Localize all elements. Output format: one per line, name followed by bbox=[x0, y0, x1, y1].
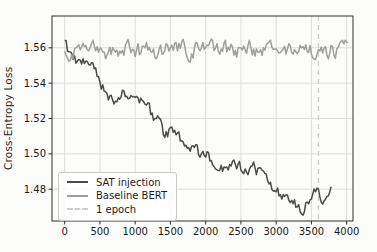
x-tick-label: 3000 bbox=[263, 226, 288, 237]
legend-item-label: SAT injection bbox=[96, 177, 161, 188]
x-tick-label: 4000 bbox=[334, 226, 359, 237]
x-tick-label: 2500 bbox=[228, 226, 253, 237]
legend-item-label: 1 epoch bbox=[96, 204, 136, 215]
x-tick-label: 3500 bbox=[299, 226, 324, 237]
legend-item: 1 epoch bbox=[67, 203, 167, 216]
series-line-baseline-bert bbox=[65, 39, 348, 62]
x-tick-label: 1000 bbox=[122, 226, 147, 237]
y-axis-label: Cross-Entropy Loss bbox=[1, 16, 15, 221]
y-tick-label: 1.50 bbox=[24, 148, 46, 159]
x-tick-label: 1500 bbox=[158, 226, 183, 237]
legend-line-swatch bbox=[67, 208, 88, 210]
legend-item-label: Baseline BERT bbox=[96, 190, 167, 201]
legend-item: SAT injection bbox=[67, 176, 167, 189]
y-tick-label: 1.54 bbox=[24, 78, 46, 89]
legend: SAT injectionBaseline BERT1 epoch bbox=[58, 172, 177, 221]
legend-line-swatch bbox=[67, 181, 88, 183]
legend-item: Baseline BERT bbox=[67, 190, 167, 203]
x-tick-label: 2000 bbox=[193, 226, 218, 237]
x-tick-label: 0 bbox=[62, 226, 68, 237]
y-tick-label: 1.52 bbox=[24, 113, 46, 124]
y-tick-label: 1.56 bbox=[24, 42, 46, 53]
y-tick-label: 1.48 bbox=[24, 184, 46, 195]
x-tick-label: 500 bbox=[90, 226, 109, 237]
loss-chart: 050010001500200025003000350040001.481.50… bbox=[0, 0, 377, 252]
legend-line-swatch bbox=[67, 195, 88, 197]
figure: 050010001500200025003000350040001.481.50… bbox=[0, 0, 377, 252]
